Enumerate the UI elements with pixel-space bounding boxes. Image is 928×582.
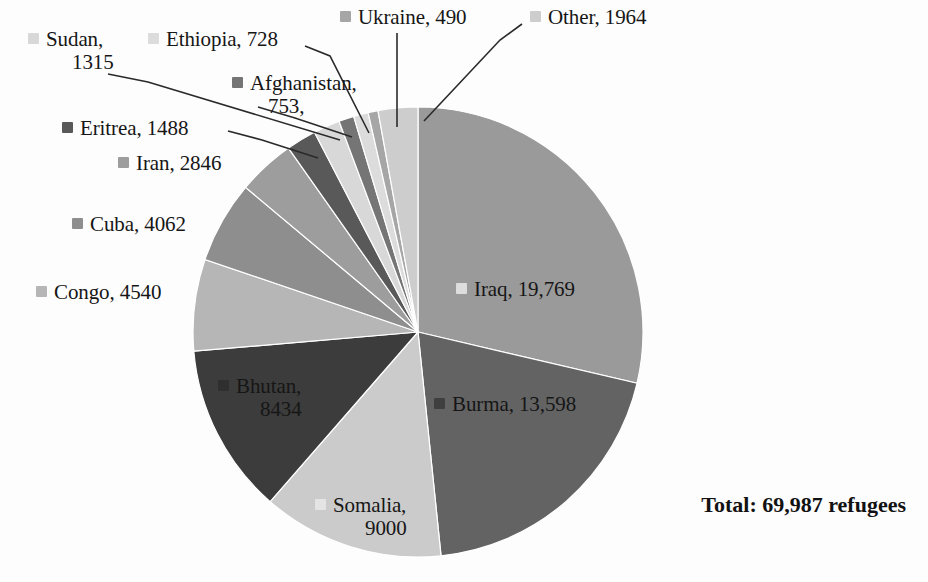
label-iraq-text: Iraq, 19,769	[474, 277, 575, 301]
swatch-iraq	[456, 283, 467, 294]
label-iraq: Iraq, 19,769	[456, 278, 575, 302]
swatch-ukraine	[340, 11, 351, 22]
label-somalia-value: 9000	[315, 517, 490, 541]
swatch-sudan	[28, 33, 39, 44]
label-iran-text: Iran, 2846	[136, 151, 221, 175]
label-afghanistan-value: 753,	[232, 95, 407, 119]
swatch-burma	[434, 398, 445, 409]
leader-line-other	[424, 24, 522, 121]
swatch-iran	[118, 157, 129, 168]
label-somalia-text: Somalia,	[333, 493, 406, 517]
swatch-bhutan	[218, 380, 229, 391]
label-burma: Burma, 13,598	[434, 393, 576, 417]
swatch-eritrea	[62, 122, 73, 133]
label-ukraine-text: Ukraine, 490	[358, 5, 466, 29]
label-afghanistan-text: Afghanistan,	[250, 71, 357, 95]
label-sudan-value: 1315	[28, 51, 148, 75]
swatch-somalia	[315, 499, 326, 510]
label-sudan-text: Sudan,	[46, 27, 103, 51]
label-bhutan-value: 8434	[218, 398, 378, 422]
label-eritrea: Eritrea, 1488	[62, 117, 188, 141]
pie-slice-group	[193, 107, 643, 557]
label-other-text: Other, 1964	[548, 5, 646, 29]
label-afghanistan: Afghanistan, 753,	[232, 72, 407, 118]
label-sudan: Sudan, 1315	[28, 28, 148, 74]
swatch-congo	[36, 286, 47, 297]
swatch-ethiopia	[148, 33, 159, 44]
total-refugees-label: Total: 69,987 refugees	[701, 492, 906, 518]
swatch-other	[530, 11, 541, 22]
label-bhutan-text: Bhutan,	[236, 374, 301, 398]
label-bhutan: Bhutan, 8434	[218, 375, 378, 421]
label-congo-text: Congo, 4540	[54, 280, 161, 304]
label-cuba-text: Cuba, 4062	[90, 212, 186, 236]
swatch-afghanistan	[232, 77, 243, 88]
label-ukraine: Ukraine, 490	[340, 6, 466, 30]
label-ethiopia: Ethiopia, 728	[148, 28, 278, 52]
label-congo: Congo, 4540	[36, 281, 161, 305]
label-burma-text: Burma, 13,598	[452, 392, 576, 416]
label-somalia: Somalia, 9000	[315, 494, 490, 540]
swatch-cuba	[72, 218, 83, 229]
label-cuba: Cuba, 4062	[72, 213, 186, 237]
label-eritrea-text: Eritrea, 1488	[80, 116, 188, 140]
label-iran: Iran, 2846	[118, 152, 221, 176]
label-other: Other, 1964	[530, 6, 646, 30]
label-ethiopia-text: Ethiopia, 728	[166, 27, 278, 51]
pie-chart-page: Sudan, 1315 Ethiopia, 728 Afghanistan, 7…	[0, 0, 928, 582]
